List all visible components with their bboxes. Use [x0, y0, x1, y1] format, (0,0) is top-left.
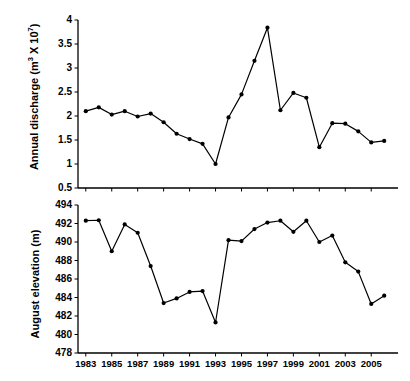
y-tick-label: 3.5	[42, 39, 72, 49]
data-point-marker	[226, 115, 230, 119]
data-point-marker	[382, 139, 386, 143]
y-tick-label: 490	[42, 237, 72, 247]
y-tick-label: 1.5	[42, 135, 72, 145]
data-point-marker	[84, 109, 88, 113]
data-point-marker	[291, 230, 295, 234]
data-point-marker	[330, 233, 334, 237]
data-point-marker	[123, 109, 127, 113]
y-tick-label: 3	[42, 63, 72, 73]
y-tick-label: 2	[42, 111, 72, 121]
data-point-marker	[97, 105, 101, 109]
series-line	[86, 28, 384, 164]
data-point-marker	[162, 120, 166, 124]
data-point-marker	[252, 227, 256, 231]
y-tick-label: 488	[42, 256, 72, 266]
data-point-marker	[149, 112, 153, 116]
x-tick-label: 2005	[353, 359, 389, 369]
y-tick-label: 486	[42, 274, 72, 284]
data-point-marker	[200, 142, 204, 146]
chart-panel-annual-discharge: Annual discharge (m3 X 107) 0.511.522.53…	[0, 0, 410, 190]
data-point-marker	[356, 270, 360, 274]
data-point-marker	[239, 239, 243, 243]
y-tick-label: 494	[42, 200, 72, 210]
y-tick-label: 1	[42, 159, 72, 169]
data-point-marker	[175, 296, 179, 300]
data-point-marker	[175, 132, 179, 136]
data-point-marker	[97, 218, 101, 222]
data-point-marker	[304, 96, 308, 100]
data-point-marker	[110, 249, 114, 253]
y-tick-label: 2.5	[42, 87, 72, 97]
y-tick-label: 4	[42, 15, 72, 25]
data-point-marker	[84, 219, 88, 223]
data-point-marker	[304, 219, 308, 223]
data-point-marker	[123, 222, 127, 226]
y-tick-label: 484	[42, 293, 72, 303]
data-point-marker	[317, 240, 321, 244]
data-point-marker	[330, 121, 334, 125]
data-point-marker	[187, 290, 191, 294]
data-point-marker	[369, 140, 373, 144]
data-point-marker	[382, 294, 386, 298]
y-tick-label: 492	[42, 219, 72, 229]
data-point-marker	[110, 112, 114, 116]
data-point-marker	[265, 26, 269, 30]
data-point-marker	[343, 122, 347, 126]
data-point-marker	[291, 91, 295, 95]
data-point-marker	[136, 114, 140, 118]
data-point-marker	[369, 302, 373, 306]
series-line	[86, 220, 384, 322]
data-point-marker	[252, 59, 256, 63]
data-point-marker	[239, 92, 243, 96]
data-point-marker	[356, 129, 360, 133]
chart-panel-august-elevation: August elevation (m) 4784804824844864884…	[0, 190, 410, 381]
data-point-marker	[149, 264, 153, 268]
data-point-marker	[317, 145, 321, 149]
data-point-marker	[200, 289, 204, 293]
data-point-marker	[265, 220, 269, 224]
data-point-marker	[213, 320, 217, 324]
y-tick-label: 480	[42, 330, 72, 340]
data-point-marker	[226, 238, 230, 242]
data-point-marker	[162, 301, 166, 305]
figure-root: Annual discharge (m3 X 107) 0.511.522.53…	[0, 0, 410, 381]
data-point-marker	[213, 162, 217, 166]
data-point-marker	[278, 108, 282, 112]
data-point-marker	[136, 231, 140, 235]
data-point-marker	[278, 219, 282, 223]
y-tick-label: 478	[42, 348, 72, 358]
y-tick-label: 482	[42, 311, 72, 321]
data-point-marker	[343, 260, 347, 264]
data-point-marker	[187, 137, 191, 141]
